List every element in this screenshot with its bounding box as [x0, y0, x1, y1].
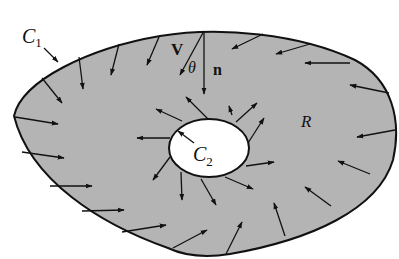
- label-theta: θ: [188, 59, 196, 76]
- label-velocity: V: [171, 40, 184, 59]
- label-normal: n: [213, 61, 222, 78]
- label-region: R: [300, 112, 312, 131]
- label-c1: C1: [22, 25, 42, 50]
- region-diagram: C1 V θ n R C2: [0, 0, 399, 259]
- c1-pointer-arrow: [44, 48, 58, 62]
